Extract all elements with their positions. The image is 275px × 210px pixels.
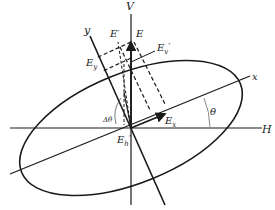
label-delta-theta: Δθ [102, 116, 113, 124]
label-ev-prime: Ev′ [156, 41, 171, 56]
e-component-vector [124, 92, 131, 128]
label-e-prime: E′ [109, 28, 120, 39]
label-ex: Ex [164, 115, 176, 129]
label-h: H [261, 123, 272, 136]
label-v: V [126, 0, 135, 13]
label-e: E [135, 28, 144, 39]
label-theta: θ [210, 106, 216, 117]
label-y: y [83, 24, 91, 37]
label-ey: Ey [85, 57, 98, 71]
y-axis [90, 36, 165, 205]
polarization-ellipse-diagram: V H x y E E′ Ey Ev′ Ex Eh′ θ Δθ [0, 0, 275, 210]
label-x: x [252, 71, 258, 82]
projection-line [96, 42, 131, 58]
ex-vector [131, 114, 165, 128]
label-eh-prime: Eh′ [116, 133, 132, 148]
